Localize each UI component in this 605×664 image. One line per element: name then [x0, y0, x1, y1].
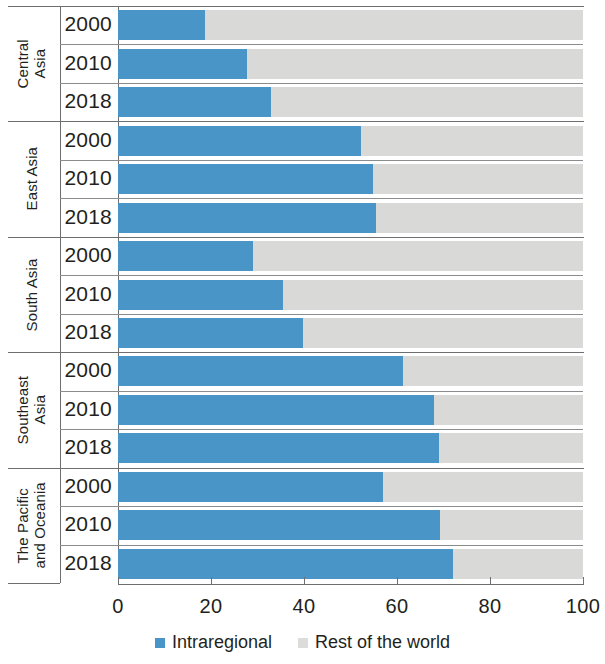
row-year-label: 2010: [60, 166, 112, 190]
row-year-label: 2018: [60, 435, 112, 459]
bar-segment-rest-of-the-world: [403, 356, 583, 386]
row-year-label: 2010: [60, 512, 112, 536]
bar-segment-intraregional: [118, 549, 453, 579]
bar-segment-intraregional: [118, 318, 303, 348]
row-separator: [60, 198, 583, 199]
row-year-label: 2000: [60, 474, 112, 498]
bar-segment-rest-of-the-world: [453, 549, 583, 579]
legend-swatch-icon-intraregional: [155, 638, 165, 648]
bar-row: [118, 164, 583, 194]
stacked-bar-chart: 2000201020182000201020182000201020182000…: [0, 0, 605, 664]
x-axis-tick: [304, 577, 305, 584]
row-separator: [60, 545, 583, 546]
bar-segment-rest-of-the-world: [271, 87, 583, 117]
bar-row: [118, 510, 583, 540]
x-axis-tick: [118, 577, 119, 584]
row-year-label: 2000: [60, 128, 112, 152]
bar-segment-rest-of-the-world: [205, 10, 583, 40]
x-axis-tick-label: 20: [200, 595, 223, 618]
bar-segment-intraregional: [118, 433, 439, 463]
bar-segment-rest-of-the-world: [283, 280, 583, 310]
x-axis-tick: [397, 577, 398, 584]
bar-segment-rest-of-the-world: [383, 472, 583, 502]
bar-row: [118, 356, 583, 386]
row-separator: [60, 44, 583, 45]
bar-segment-rest-of-the-world: [253, 241, 583, 271]
group-label-the-pacific-and-oceania: The Pacific and Oceania: [4, 468, 60, 583]
chart-legend: Intraregional Rest of the world: [0, 632, 605, 653]
legend-item-intraregional: Intraregional: [155, 632, 272, 653]
bar-segment-intraregional: [118, 164, 373, 194]
x-axis-tick: [490, 577, 491, 584]
bar-row: [118, 10, 583, 40]
bar-row: [118, 126, 583, 156]
bar-segment-intraregional: [118, 280, 283, 310]
group-separator: [8, 121, 584, 122]
bar-segment-intraregional: [118, 126, 361, 156]
row-year-label: 2010: [60, 397, 112, 421]
group-label-south-asia: South Asia: [4, 237, 60, 352]
x-axis-tick-label: 40: [293, 595, 316, 618]
x-axis-tick-label: 60: [386, 595, 409, 618]
legend-item-rest-of-the-world: Rest of the world: [298, 632, 450, 653]
row-year-label: 2000: [60, 243, 112, 267]
x-axis-tick: [211, 577, 212, 584]
row-separator: [60, 160, 583, 161]
bar-row: [118, 318, 583, 348]
row-separator: [60, 429, 583, 430]
x-axis-tick-label: 100: [566, 595, 600, 618]
bar-segment-rest-of-the-world: [361, 126, 583, 156]
bar-segment-rest-of-the-world: [376, 203, 583, 233]
row-year-label: 2010: [60, 282, 112, 306]
row-year-label: 2018: [60, 205, 112, 229]
bar-segment-intraregional: [118, 395, 434, 425]
group-label-southeast-asia: Southeast Asia: [4, 352, 60, 467]
bar-segment-intraregional: [118, 472, 383, 502]
bar-segment-intraregional: [118, 510, 440, 540]
legend-label-intraregional: Intraregional: [172, 632, 272, 653]
bar-segment-intraregional: [118, 87, 271, 117]
row-year-label: 2010: [60, 51, 112, 75]
bar-segment-rest-of-the-world: [439, 433, 583, 463]
bar-segment-intraregional: [118, 241, 253, 271]
bar-row: [118, 395, 583, 425]
bar-segment-rest-of-the-world: [303, 318, 583, 348]
row-separator: [60, 275, 583, 276]
legend-swatch-icon-rest-of-the-world: [298, 638, 308, 648]
bar-row: [118, 241, 583, 271]
x-axis-tick-label: 0: [112, 595, 123, 618]
plot-area: 2000201020182000201020182000201020182000…: [0, 0, 605, 592]
row-separator: [60, 83, 583, 84]
group-separator: [8, 352, 584, 353]
bar-segment-rest-of-the-world: [247, 49, 583, 79]
bar-segment-intraregional: [118, 10, 205, 40]
bar-row: [118, 472, 583, 502]
row-separator: [60, 314, 583, 315]
bar-segment-intraregional: [118, 49, 247, 79]
bar-segment-intraregional: [118, 203, 376, 233]
bar-row: [118, 549, 583, 579]
row-separator: [60, 506, 583, 507]
row-year-label: 2000: [60, 12, 112, 36]
row-separator: [60, 391, 583, 392]
row-year-label: 2018: [60, 320, 112, 344]
bar-segment-intraregional: [118, 356, 403, 386]
row-year-label: 2000: [60, 358, 112, 382]
bar-segment-rest-of-the-world: [440, 510, 583, 540]
bar-row: [118, 280, 583, 310]
group-separator: [8, 6, 584, 7]
group-separator: [8, 468, 584, 469]
legend-label-rest-of-the-world: Rest of the world: [315, 632, 450, 653]
bar-segment-rest-of-the-world: [434, 395, 583, 425]
group-label-east-asia: East Asia: [4, 121, 60, 236]
x-axis-tick-label: 80: [479, 595, 502, 618]
row-year-label: 2018: [60, 89, 112, 113]
x-axis-tick: [583, 577, 584, 584]
bar-row: [118, 49, 583, 79]
bar-row: [118, 433, 583, 463]
bar-row: [118, 87, 583, 117]
bar-row: [118, 203, 583, 233]
group-separator: [8, 237, 584, 238]
x-axis-line: [118, 584, 584, 585]
bar-segment-rest-of-the-world: [373, 164, 583, 194]
